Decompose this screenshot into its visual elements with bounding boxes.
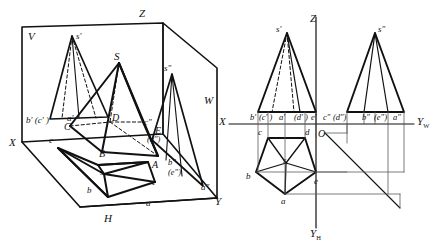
object-label-B: B bbox=[99, 149, 105, 159]
front-view-label-d-prime: (d′ ) bbox=[294, 113, 308, 122]
h-label-b: b bbox=[87, 186, 92, 195]
ortho-axis-label-x: X bbox=[219, 116, 226, 127]
h-label-a: a bbox=[146, 199, 151, 208]
top-view-label-c: c bbox=[258, 128, 262, 137]
w-label-e-dprime: (e″) bbox=[168, 168, 181, 177]
v-label-a-prime: a′ bbox=[67, 114, 73, 123]
object-label-S: S bbox=[114, 51, 120, 62]
side-view-label-a-dprime: a″ bbox=[393, 113, 401, 122]
h-label-s: s bbox=[100, 168, 104, 177]
top-view-label-d: d bbox=[305, 128, 310, 137]
side-view-label-d-dprime: (d″) bbox=[333, 113, 346, 122]
top-view-label-b: b bbox=[246, 172, 251, 181]
plane-label-w: W bbox=[204, 95, 213, 106]
plane-label-h: H bbox=[104, 213, 112, 224]
front-view-visible-edges bbox=[287, 33, 300, 112]
w-label-s-dprime: s″ bbox=[164, 64, 171, 73]
side-view-label-e-dprime: (e″) bbox=[374, 113, 387, 122]
axis-label-y-pictorial: Y bbox=[215, 196, 221, 207]
w-label-a-dprime: a″ bbox=[201, 183, 209, 192]
side-view-label-s-dprime: s″ bbox=[378, 25, 385, 34]
top-view-label-a: a bbox=[281, 197, 286, 206]
front-view-label-a-prime: a′ bbox=[279, 113, 285, 122]
front-view-label-s-prime: s′ bbox=[276, 25, 281, 34]
axis-label-x-pictorial: X bbox=[9, 137, 16, 148]
axis-label-z-pictorial: Z bbox=[139, 8, 145, 19]
top-view-label-e: e bbox=[314, 177, 318, 186]
object-label-C: C bbox=[64, 122, 71, 132]
side-view-label-b-dprime: b″ bbox=[362, 113, 370, 122]
h-label-c: c bbox=[49, 136, 53, 145]
ortho-axis-label-yh: YH bbox=[310, 228, 321, 242]
projection-box-h-plane bbox=[22, 142, 217, 207]
ortho-axis-label-o: O bbox=[318, 129, 325, 139]
w-label-c-dprime: c″ bbox=[144, 118, 152, 127]
object-label-D: D bbox=[112, 113, 119, 123]
front-view-outline bbox=[258, 33, 316, 112]
top-view-label-s: s bbox=[283, 156, 287, 165]
v-label-s-prime: s′ bbox=[76, 32, 81, 41]
ortho-axis-label-yw: YW bbox=[417, 116, 429, 130]
object-label-A: A bbox=[152, 160, 158, 170]
figure-canvas: V W H Z X Y S A B C D E s′ b′ (c′ ) a′ s… bbox=[0, 0, 442, 247]
side-view-outline bbox=[347, 33, 404, 112]
h-label-e: e bbox=[152, 178, 156, 187]
w-label-b-dprime: b″ bbox=[168, 158, 176, 167]
plane-label-v: V bbox=[28, 31, 35, 42]
w-label-d-dprime: (d″) bbox=[147, 135, 160, 144]
front-view-label-b-prime: b′ bbox=[250, 113, 256, 122]
front-view-label-c-prime: (c′ ) bbox=[259, 113, 272, 122]
side-view-label-c-dprime: c″ bbox=[323, 113, 330, 122]
v-projection-pyramid bbox=[50, 36, 108, 119]
v-label-bc-prime: b′ (c′ ) bbox=[26, 116, 49, 125]
side-view-visible-edges bbox=[364, 33, 388, 112]
construction-lines bbox=[256, 112, 404, 208]
axis-45-degree-line bbox=[325, 133, 400, 208]
ortho-axis-label-z: Z bbox=[310, 13, 316, 24]
front-view-label-e-prime: e′ bbox=[311, 113, 317, 122]
space-pyramid-visible-edges bbox=[70, 63, 158, 156]
